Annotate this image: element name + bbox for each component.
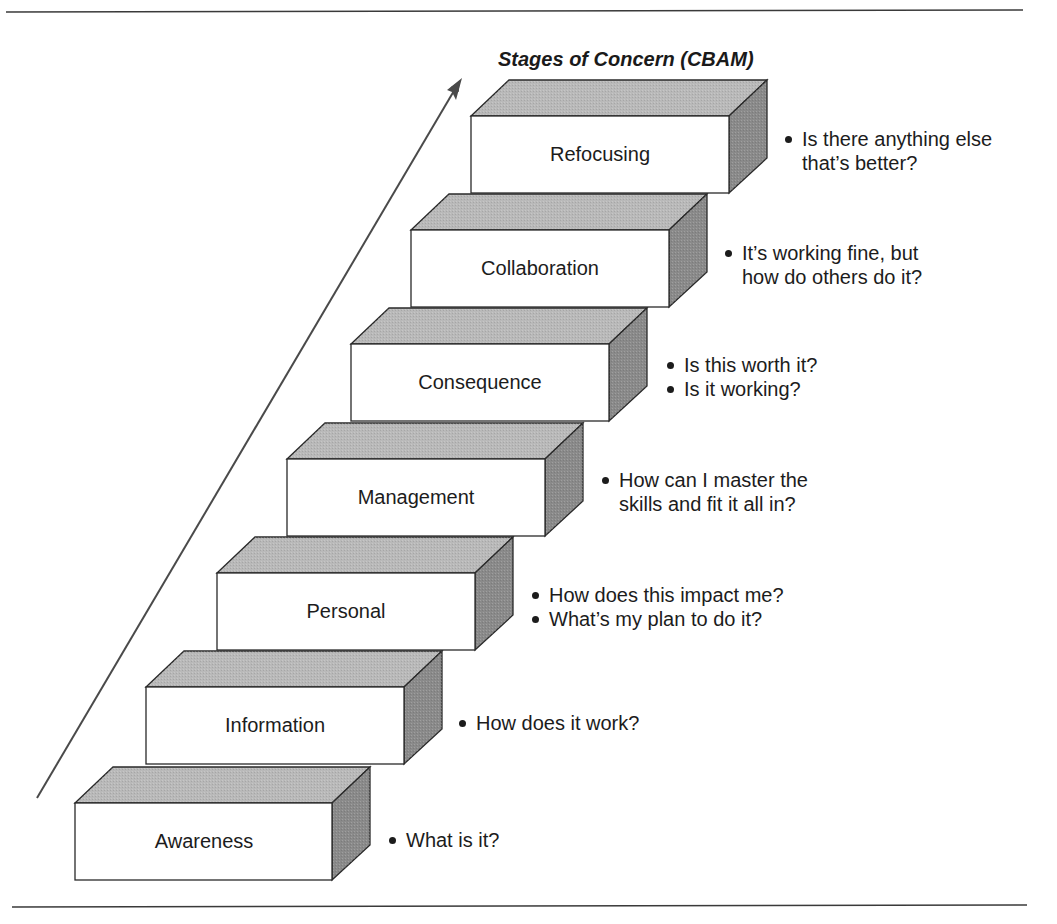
step-label-personal: Personal: [217, 573, 475, 650]
questions-management: How can I master the skills and fit it a…: [599, 468, 808, 516]
questions-personal: How does this impact me? What’s my plan …: [529, 583, 784, 631]
questions-information: How does it work?: [456, 711, 639, 735]
bullet-icon: [532, 592, 539, 599]
bullet-icon: [785, 136, 792, 143]
question-item: What’s my plan to do it?: [529, 607, 784, 631]
bottom-rule: [12, 905, 1027, 907]
cbam-stages-diagram: Stages of Concern (CBAM) Awareness Infor…: [0, 0, 1057, 924]
questions-consequence: Is this worth it? Is it working?: [664, 353, 817, 401]
bullet-icon: [389, 837, 396, 844]
arrowhead-icon: [447, 78, 462, 100]
step-label-management: Management: [287, 459, 545, 536]
top-rule: [6, 10, 1023, 12]
question-item: Is there anything else: [782, 127, 992, 151]
step-label-collaboration: Collaboration: [411, 230, 669, 307]
question-item: How can I master the: [599, 468, 808, 492]
question-item: How does this impact me?: [529, 583, 784, 607]
bullet-icon: [602, 477, 609, 484]
question-item: It’s working fine, but: [722, 241, 922, 265]
step-label-consequence: Consequence: [351, 344, 609, 421]
bullet-icon: [459, 720, 466, 727]
step-label-refocusing: Refocusing: [471, 116, 729, 193]
bullet-icon: [667, 362, 674, 369]
questions-awareness: What is it?: [386, 828, 499, 852]
bullet-icon: [532, 616, 539, 623]
bullet-icon: [725, 250, 732, 257]
question-item: Is this worth it?: [664, 353, 817, 377]
question-item: How does it work?: [456, 711, 639, 735]
step-label-awareness: Awareness: [75, 803, 333, 880]
diagram-title: Stages of Concern (CBAM): [498, 48, 754, 71]
bullet-icon: [667, 386, 674, 393]
questions-refocusing: Is there anything else that’s better?: [782, 127, 992, 175]
question-item: What is it?: [386, 828, 499, 852]
questions-collaboration: It’s working fine, but how do others do …: [722, 241, 922, 289]
step-label-information: Information: [146, 687, 404, 764]
question-item: Is it working?: [664, 377, 817, 401]
